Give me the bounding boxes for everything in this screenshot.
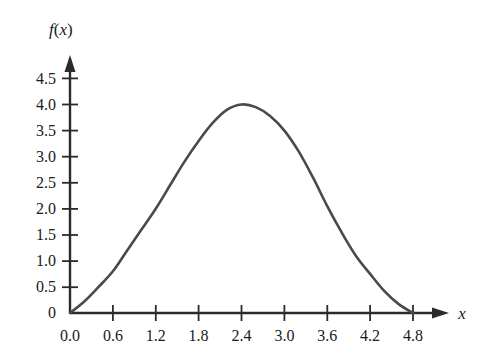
x-tick-label-4.8: 4.8 [403,327,423,344]
x-tick-label-0.0: 0.0 [60,327,80,344]
x-tick-label-1.8: 1.8 [189,327,209,344]
x-tick-label-3.6: 3.6 [317,327,337,344]
y-tick-label-0.5: 0.5 [36,278,56,295]
y-axis-title: f(x) [49,20,73,39]
y-axis [65,55,76,313]
x-axis-title: x [457,304,466,323]
y-tick-label-3.0: 3.0 [36,148,56,165]
y-tick-label-4.0: 4.0 [36,96,56,113]
y-tick-label-1.5: 1.5 [36,226,56,243]
chart-plot: 4.5 4.0 3.5 3.0 2.5 2.0 1.5 1.0 0.5 0 0.… [0,0,490,359]
x-tick-label-0.6: 0.6 [103,327,123,344]
data-curve [70,104,413,313]
x-tick-label-3.0: 3.0 [274,327,294,344]
y-axis-title-paren-close: ) [67,20,73,39]
y-tick-label-2.0: 2.0 [36,200,56,217]
y-tick-label-4.5: 4.5 [36,70,56,87]
x-tick-label-1.2: 1.2 [146,327,166,344]
x-axis [70,308,449,319]
x-tick-label-2.4: 2.4 [232,327,252,344]
x-axis-tick-labels: 0.0 0.6 1.2 1.8 2.4 3.0 3.6 4.2 4.8 [60,327,423,344]
y-tick-label-3.5: 3.5 [36,122,56,139]
y-tick-label-1.0: 1.0 [36,252,56,269]
y-axis-tick-labels: 4.5 4.0 3.5 3.0 2.5 2.0 1.5 1.0 0.5 0 [36,70,56,321]
x-axis-arrow-icon [432,308,449,319]
x-tick-label-4.2: 4.2 [360,327,380,344]
y-tick-label-2.5: 2.5 [36,174,56,191]
figure-container: 4.5 4.0 3.5 3.0 2.5 2.0 1.5 1.0 0.5 0 0.… [0,0,490,359]
y-tick-label-origin: 0 [48,304,56,321]
y-axis-arrow-icon [65,55,76,72]
